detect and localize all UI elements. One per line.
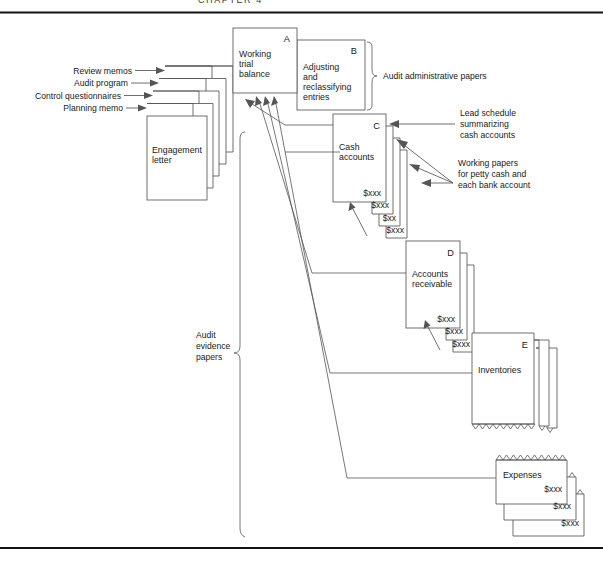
inventories-sheet-torn-edge-3	[547, 428, 553, 433]
engagement-label-line2: letter	[152, 155, 172, 165]
brace-audit-administrative	[367, 42, 377, 110]
callout-working-papers-line2: for petty cash and	[458, 169, 527, 179]
expenses-torn-top-edge	[496, 455, 566, 460]
rollup-line-receivable	[255, 96, 312, 273]
box-b-line3: reclassifying	[303, 82, 352, 92]
annotation-working-papers-arrow-3	[421, 179, 453, 187]
input-arrow-review-memos	[135, 67, 165, 74]
expenses-sheet2-torn-top	[569, 473, 575, 478]
callout-audit-administrative-papers: Audit administrative papers	[383, 71, 487, 81]
input-arrow-control-questionnaires	[124, 92, 153, 99]
expenses-label: Expenses	[503, 470, 542, 480]
input-label-review-memos: Review memos	[73, 66, 132, 76]
receivable-amount-2: $xxx	[445, 326, 463, 336]
cash-amount-3: $xx	[383, 213, 397, 223]
box-a-line2: trial	[239, 59, 253, 69]
callout-lead-schedule-line3: cash accounts	[460, 130, 515, 140]
diagram-page: CHAPTER 4 Review memos Audit program Con…	[0, 0, 603, 565]
box-b-line4: entries	[303, 92, 330, 102]
box-d-line1: Accounts	[412, 269, 449, 279]
box-a-line1: Working	[239, 49, 271, 59]
inventories-torn-bottom-edge	[472, 424, 535, 429]
box-b-line2: and	[303, 72, 318, 82]
rollup-line-inventories	[263, 96, 330, 373]
input-label-planning-memo: Planning memo	[63, 103, 123, 113]
cash-amount-1: $xxx	[363, 188, 381, 198]
callout-audit-evidence-line2: evidence	[196, 341, 231, 351]
callout-working-papers-line1: Working papers	[458, 158, 518, 168]
audit-working-papers-diagram: Review memos Audit program Control quest…	[0, 0, 603, 565]
inventories-sheet-torn-edge-2	[539, 426, 545, 431]
receivable-amount-3: $xxx	[452, 339, 470, 349]
cash-internal-rollup-arrow	[349, 202, 368, 236]
callout-audit-evidence-line1: Audit	[196, 330, 216, 340]
input-label-audit-program: Audit program	[74, 78, 128, 88]
callout-lead-schedule-line2: summarizing	[460, 119, 509, 129]
callout-working-papers-line3: each bank account	[458, 180, 531, 190]
input-label-control-questionnaires: Control questionnaires	[35, 91, 121, 101]
box-a-letter: A	[284, 34, 291, 44]
receivable-amount-1: $xxx	[437, 314, 455, 324]
expenses-sheet3-torn-top	[577, 490, 583, 495]
cash-amount-4: $xxx	[386, 225, 404, 235]
box-c-line1: Cash	[339, 142, 360, 152]
engagement-label-line1: Engagement	[152, 145, 202, 155]
box-b-letter: B	[351, 46, 357, 56]
brace-audit-evidence	[234, 132, 245, 537]
box-d-letter: D	[447, 248, 454, 258]
cash-amount-2: $xxx	[371, 200, 389, 210]
callout-lead-schedule-line1: Lead schedule	[460, 108, 516, 118]
annotation-lead-schedule-arrow	[389, 120, 455, 128]
box-e-line1: Inventories	[478, 365, 522, 375]
box-d-line2: receivable	[412, 279, 452, 289]
input-arrow-planning-memo	[126, 105, 147, 112]
expenses-amount-3: $xxx	[561, 518, 579, 528]
expenses-amount-2: $xxx	[553, 501, 571, 511]
box-b-line1: Adjusting	[303, 62, 339, 72]
box-a-line3: balance	[239, 69, 270, 79]
expenses-amount-1: $xxx	[544, 484, 562, 494]
callout-audit-evidence-line3: papers	[196, 352, 222, 362]
input-arrow-audit-program	[131, 80, 159, 87]
box-e-letter: E	[522, 340, 528, 350]
box-c-line2: accounts	[339, 152, 375, 162]
box-c-letter: C	[373, 121, 380, 131]
expenses-sheet-front	[496, 460, 567, 504]
